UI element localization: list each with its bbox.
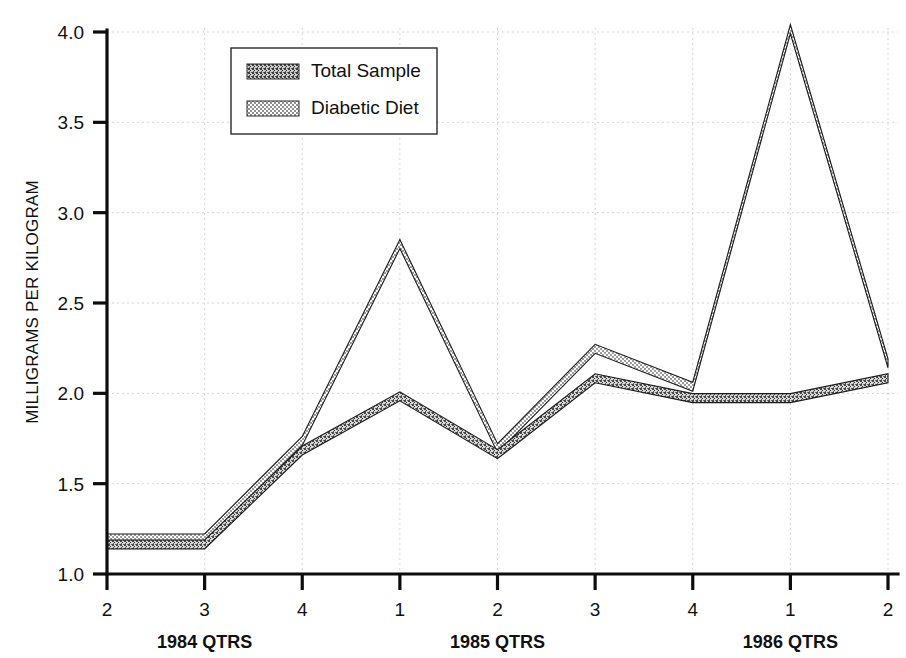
legend: Total Sample Diabetic Diet [231, 48, 437, 134]
legend-swatch-total-sample [247, 64, 299, 79]
y-tick-label: 1.5 [58, 474, 84, 495]
x-tick-label: 3 [590, 599, 601, 620]
chart-container: 1.01.52.02.53.03.54.0 234123412 1984 QTR… [0, 0, 906, 658]
legend-swatch-diabetic-diet [247, 101, 299, 116]
line-chart: 1.01.52.02.53.03.54.0 234123412 1984 QTR… [0, 0, 906, 658]
y-tick-label: 2.5 [58, 293, 84, 314]
x-tick-label: 2 [102, 599, 113, 620]
x-tick-label: 1 [785, 599, 796, 620]
x-tick-label: 2 [492, 599, 503, 620]
x-group-label: 1984 QTRS [157, 632, 252, 652]
x-tick-label: 2 [883, 599, 894, 620]
y-tick-label: 1.0 [58, 564, 84, 585]
x-tick-label: 3 [199, 599, 210, 620]
y-tick-label: 4.0 [58, 22, 84, 43]
legend-label-total-sample: Total Sample [311, 60, 421, 81]
x-group-label: 1985 QTRS [450, 632, 545, 652]
y-tick-label: 3.5 [58, 112, 84, 133]
legend-label-diabetic-diet: Diabetic Diet [311, 97, 419, 118]
y-axis-title: MILLIGRAMS PER KILOGRAM [23, 180, 42, 424]
x-tick-label: 4 [687, 599, 698, 620]
y-tick-label: 3.0 [58, 203, 84, 224]
x-tick-label: 4 [297, 599, 308, 620]
x-group-label: 1986 QTRS [743, 632, 838, 652]
y-tick-label: 2.0 [58, 383, 84, 404]
x-tick-label: 1 [395, 599, 406, 620]
